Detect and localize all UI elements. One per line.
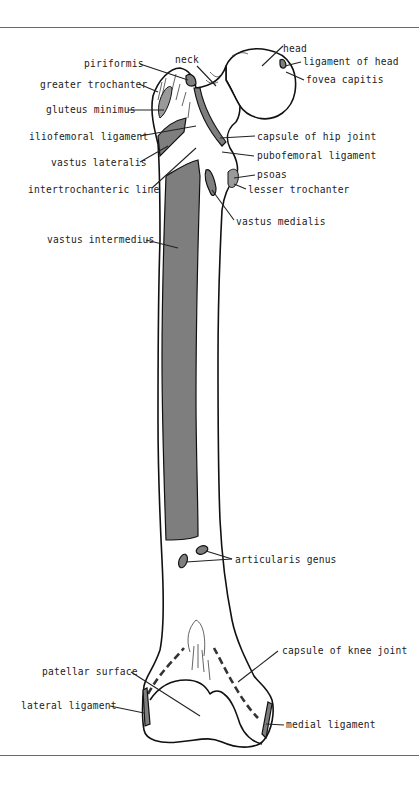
femur-diagram: head ligament of head fovea capitis neck…: [0, 0, 419, 786]
label-capsule-of-hip-joint: capsule of hip joint: [257, 131, 377, 142]
label-medial-ligament: medial ligament: [286, 719, 376, 730]
label-piriformis: piriformis: [84, 58, 144, 69]
label-pubofemoral-ligament: pubofemoral ligament: [257, 150, 377, 161]
label-head: head: [283, 43, 307, 54]
label-gluteus-minimus: gluteus minimus: [46, 104, 136, 115]
label-lateral-ligament: lateral ligament: [21, 700, 117, 711]
vastus-intermedius-area: [162, 160, 200, 540]
label-intertrochanteric-line: intertrochanteric line: [28, 184, 159, 195]
label-greater-trochanter: greater trochanter: [40, 79, 148, 90]
label-psoas: psoas: [257, 169, 287, 180]
label-patellar-surface: patellar surface: [42, 666, 138, 677]
label-vastus-medialis: vastus medialis: [236, 216, 326, 227]
label-articularis-genus: articularis genus: [235, 554, 337, 565]
fovea-capitis-area: [280, 59, 286, 68]
label-ligament-of-head: ligament of head: [303, 56, 399, 67]
label-capsule-of-knee-joint: capsule of knee joint: [282, 645, 408, 656]
label-iliofemoral-ligament: iliofemoral ligament: [29, 131, 149, 142]
label-vastus-lateralis: vastus lateralis: [51, 157, 147, 168]
label-lesser-trochanter: lesser trochanter: [248, 184, 350, 195]
label-fovea-capitis: fovea capitis: [306, 74, 384, 85]
label-vastus-intermedius: vastus intermedius: [47, 234, 155, 245]
label-neck: neck: [175, 54, 199, 65]
